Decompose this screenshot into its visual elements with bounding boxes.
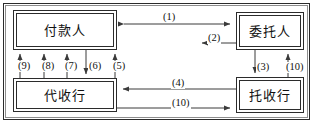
- edge-label-4: (4): [171, 78, 185, 89]
- node-client-label: 委托人: [249, 25, 291, 38]
- edge-label-2: (2): [207, 33, 221, 44]
- node-client: 委托人: [236, 12, 304, 50]
- node-payer: 付款人: [13, 10, 117, 50]
- node-remitting-bank: 托收行: [236, 77, 304, 113]
- node-remitting-bank-label: 托收行: [249, 89, 291, 102]
- edge-label-10-bottom: (10): [171, 98, 191, 109]
- node-collecting-bank-inner: 代收行: [16, 81, 114, 109]
- node-payer-label: 付款人: [44, 24, 86, 37]
- edge-label-10-right: (10): [285, 62, 305, 73]
- edge-label-7: (7): [64, 61, 78, 72]
- node-collecting-bank: 代收行: [13, 78, 117, 112]
- edge-label-9: (9): [17, 61, 31, 72]
- edge-label-6: (6): [88, 61, 102, 72]
- collection-settlement-diagram: 付款人 委托人 代收行 托收行 (1) (2) (3) (10) (4) (10…: [0, 0, 320, 126]
- edge-label-5: (5): [112, 61, 126, 72]
- node-remitting-bank-inner: 托收行: [239, 80, 301, 110]
- node-client-inner: 委托人: [239, 15, 301, 47]
- edge-label-3: (3): [256, 62, 270, 73]
- node-payer-inner: 付款人: [16, 13, 114, 47]
- node-collecting-bank-label: 代收行: [44, 89, 86, 102]
- edge-label-8: (8): [41, 61, 55, 72]
- edge-label-1: (1): [162, 12, 176, 23]
